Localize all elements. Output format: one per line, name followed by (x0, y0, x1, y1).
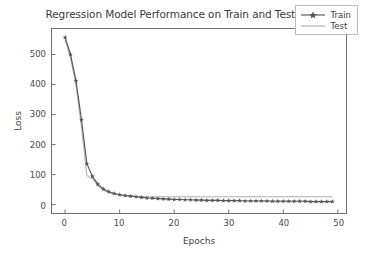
data-point-marker (210, 198, 215, 202)
data-point-marker (265, 199, 270, 203)
data-point-marker (248, 199, 253, 203)
data-point-marker (254, 199, 259, 203)
data-point-marker (221, 198, 226, 202)
data-point-marker (259, 199, 264, 203)
data-point-marker (139, 195, 144, 199)
data-point-marker (166, 197, 171, 201)
data-point-marker (172, 197, 177, 201)
y-tick-label: 400 (30, 79, 46, 89)
data-point-marker (128, 194, 133, 198)
y-axis-ticks: 0100200300400500 (0, 28, 46, 214)
data-point-marker (303, 199, 308, 203)
legend-item-train: Train (300, 9, 351, 20)
data-point-marker (194, 198, 199, 202)
legend-item-test: Test (300, 20, 351, 31)
data-point-marker (330, 199, 335, 203)
data-point-marker (292, 199, 297, 203)
legend-label-train: Train (331, 10, 351, 20)
data-point-marker (270, 199, 275, 203)
plot-area (51, 28, 347, 214)
data-point-marker (286, 199, 291, 203)
x-tick-label: 50 (333, 218, 344, 228)
chart-figure: Regression Model Performance on Train an… (0, 0, 365, 266)
data-point-marker (314, 199, 319, 203)
data-point-marker (275, 199, 280, 203)
chart-legend: Train Test (295, 5, 358, 35)
legend-label-test: Test (331, 21, 348, 31)
x-axis-ticks: 01020304050 (51, 218, 347, 232)
tick-marks (52, 55, 338, 213)
y-tick-label: 0 (41, 201, 46, 211)
data-point-marker (177, 197, 182, 201)
data-point-marker (145, 196, 150, 200)
y-tick-label: 500 (30, 49, 46, 59)
data-point-marker (281, 199, 286, 203)
data-point-marker (319, 199, 324, 203)
data-point-marker (188, 197, 193, 201)
data-point-marker (117, 192, 122, 196)
data-point-marker (226, 198, 231, 202)
y-tick-label: 200 (30, 140, 46, 150)
y-tick-label: 300 (30, 109, 46, 119)
data-point-marker (199, 198, 204, 202)
data-point-marker (123, 193, 128, 197)
series-line-train (65, 37, 332, 201)
y-tick-label: 100 (30, 170, 46, 180)
data-point-marker (232, 198, 237, 202)
data-point-marker (297, 199, 302, 203)
x-tick-label: 10 (114, 218, 125, 228)
data-point-marker (215, 198, 220, 202)
data-point-marker (183, 197, 188, 201)
data-point-marker (325, 199, 330, 203)
data-point-marker (308, 199, 313, 203)
x-axis-label: Epochs (51, 236, 347, 246)
series-markers-train (63, 35, 335, 204)
data-point-marker (205, 198, 210, 202)
x-tick-label: 0 (61, 218, 66, 228)
data-point-marker (134, 194, 139, 198)
series-line-test (65, 40, 332, 197)
data-point-marker (237, 198, 242, 202)
x-tick-label: 20 (169, 218, 180, 228)
plot-svg (52, 29, 346, 213)
legend-swatch-train-icon (300, 10, 326, 20)
legend-swatch-test-icon (300, 21, 326, 31)
x-tick-label: 30 (224, 218, 235, 228)
data-point-marker (243, 199, 248, 203)
x-tick-label: 40 (278, 218, 289, 228)
